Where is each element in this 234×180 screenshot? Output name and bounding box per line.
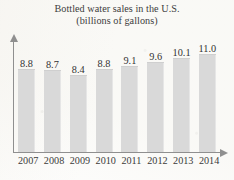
bar-chart-figure: Bottled water sales in the U.S. (billion… bbox=[0, 0, 234, 180]
bar-group: 9.1 bbox=[121, 40, 138, 152]
bar-value-label: 9.6 bbox=[149, 51, 162, 62]
bar-rect bbox=[70, 75, 87, 152]
bar-group: 10.1 bbox=[173, 40, 190, 152]
bar-rect bbox=[44, 70, 61, 152]
bar-rect bbox=[173, 58, 190, 152]
bar-rect bbox=[147, 62, 164, 152]
x-tick-label: 2011 bbox=[121, 155, 138, 167]
x-tick-label: 2014 bbox=[199, 155, 216, 167]
x-tick-label: 2009 bbox=[70, 155, 87, 167]
x-tick-label: 2012 bbox=[147, 155, 164, 167]
bar-value-label: 8.7 bbox=[46, 59, 59, 70]
bar-group: 9.6 bbox=[147, 40, 164, 152]
bar-group: 8.8 bbox=[96, 40, 113, 152]
plot-area: 8.8 8.7 8.4 8.8 9.1 9.6 bbox=[0, 0, 234, 180]
x-axis-line bbox=[13, 152, 222, 153]
x-tick-label: 2007 bbox=[18, 155, 35, 167]
x-axis-tick-labels: 2007 2008 2009 2010 2011 2012 2013 2014 bbox=[18, 155, 216, 167]
bar-value-label: 8.8 bbox=[20, 58, 33, 69]
bar-series: 8.8 8.7 8.4 8.8 9.1 9.6 bbox=[18, 40, 216, 152]
y-axis-arrow-icon bbox=[10, 34, 18, 42]
bar-value-label: 10.1 bbox=[173, 47, 191, 58]
x-tick-label: 2008 bbox=[44, 155, 61, 167]
bar-group: 8.8 bbox=[18, 40, 35, 152]
bar-value-label: 9.1 bbox=[123, 55, 136, 66]
bar-rect bbox=[96, 69, 113, 152]
x-tick-label: 2010 bbox=[96, 155, 113, 167]
bar-rect bbox=[18, 69, 35, 152]
x-axis-arrow-icon bbox=[220, 149, 228, 157]
bar-value-label: 8.8 bbox=[98, 58, 111, 69]
bar-value-label: 11.0 bbox=[199, 43, 217, 54]
x-tick-label: 2013 bbox=[173, 155, 190, 167]
bar-rect bbox=[199, 54, 216, 152]
bar-group: 8.4 bbox=[70, 40, 87, 152]
bar-group: 11.0 bbox=[199, 40, 216, 152]
bar-value-label: 8.4 bbox=[72, 64, 85, 75]
y-axis-line bbox=[13, 41, 14, 152]
bar-group: 8.7 bbox=[44, 40, 61, 152]
bar-rect bbox=[121, 66, 138, 152]
